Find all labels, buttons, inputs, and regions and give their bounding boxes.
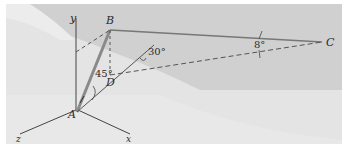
diagram-frame: y B C A D z x 45° 30° 8° (6, 4, 342, 144)
point-B-label: B (105, 14, 114, 27)
y-axis-label: y (69, 12, 77, 25)
z-axis-label: z (15, 134, 21, 144)
angle-45-label: 45° (95, 68, 113, 79)
x-axis-label: x (126, 134, 131, 144)
statics-diagram: y B C A D z x 45° 30° 8° (6, 4, 342, 144)
angle-8-label: 8° (254, 39, 265, 50)
angle-30-label: 30° (148, 46, 166, 57)
point-A-label: A (67, 108, 76, 121)
point-C-label: C (326, 36, 335, 49)
